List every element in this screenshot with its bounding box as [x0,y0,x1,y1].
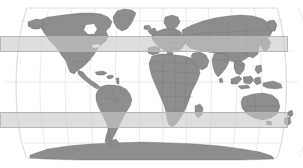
world-map-figure [0,0,303,168]
tasmania-landmass [266,121,272,125]
world-map-canvas [0,0,303,168]
